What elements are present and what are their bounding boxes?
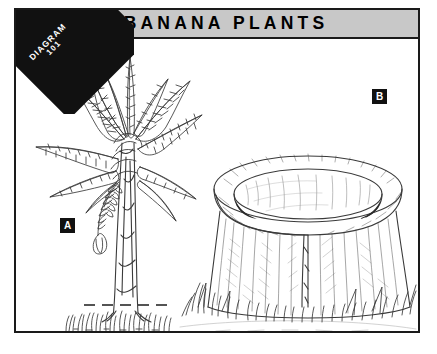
leaf [137,181,176,221]
figure-banana-plant [36,57,202,331]
cut-surface-grain [246,175,370,211]
illustration-canvas [16,39,418,331]
leaf [36,144,119,173]
ground-line-b [180,321,416,331]
illustration-svg [16,39,418,331]
diagram-plate: BANANA PLANTS DIAGRAM 101 A B [14,8,420,333]
leaf [72,83,124,141]
callout-label-b: B [372,89,387,104]
callout-label-a: A [60,218,75,233]
pseudostem [102,143,151,322]
figure-cut-stump [180,154,416,331]
diagram-title-bar: BANANA PLANTS [16,10,418,39]
ground-grass-a [66,311,171,331]
rim-hatching [219,154,402,236]
screenshot-root: BANANA PLANTS DIAGRAM 101 A B [0,0,437,354]
leaf [126,57,135,138]
leaf [134,79,168,136]
page-title: BANANA PLANTS [106,15,329,33]
